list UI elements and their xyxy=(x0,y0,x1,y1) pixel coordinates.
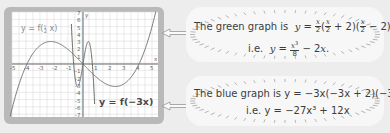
callout-green-line1: The green graph is y = x2(x2 + 2)(x2 − 2… xyxy=(194,19,384,34)
svg-text:-5: -5 xyxy=(75,98,81,104)
svg-text:3: 3 xyxy=(77,39,81,45)
svg-text:3: 3 xyxy=(122,65,126,71)
graph-svg: -5-4-3-2-1123451234567-1-2-3-4-5-6-7xy y… xyxy=(4,7,164,124)
svg-text:-1: -1 xyxy=(75,68,80,74)
svg-text:-2: -2 xyxy=(52,65,57,71)
callout-blue-line1: The blue graph is y = −3x(−3x + 2)(−3x −… xyxy=(194,88,384,99)
svg-text:-6: -6 xyxy=(75,105,81,111)
svg-text:5: 5 xyxy=(150,65,154,71)
callout-green-line2: i.e. y = x38 − 2x. xyxy=(248,40,384,58)
graph-panel: -5-4-3-2-1123451234567-1-2-3-4-5-6-7xy y… xyxy=(4,7,164,124)
svg-text:7: 7 xyxy=(77,10,81,16)
label-green-graph: y = f(12 x) xyxy=(21,24,57,34)
callout-blue: The blue graph is y = −3x(−3x + 2)(−3x −… xyxy=(186,76,384,126)
svg-text:2: 2 xyxy=(77,46,81,52)
svg-text:5: 5 xyxy=(77,25,81,31)
svg-text:-4: -4 xyxy=(75,90,81,96)
svg-text:-5: -5 xyxy=(10,65,16,71)
svg-text:-7: -7 xyxy=(75,112,81,118)
svg-text:2: 2 xyxy=(108,65,112,71)
label-blue-graph: y = f(−3x) xyxy=(99,96,153,107)
svg-text:-1: -1 xyxy=(66,65,71,71)
callout-green: The green graph is y = x2(x2 + 2)(x2 − 2… xyxy=(186,7,384,62)
svg-text:6: 6 xyxy=(77,17,81,23)
svg-text:1: 1 xyxy=(94,65,98,71)
svg-text:4: 4 xyxy=(77,32,81,38)
callout-blue-border-ticks xyxy=(186,76,384,126)
callout-blue-line2: i.e. y = −27x³ + 12x xyxy=(246,105,384,116)
svg-text:-3: -3 xyxy=(38,65,44,71)
